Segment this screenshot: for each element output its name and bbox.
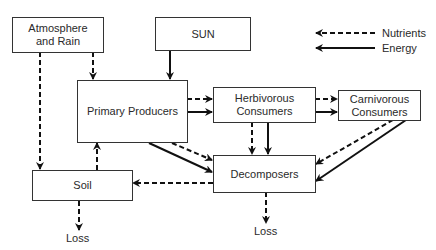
- legend-energy-label: Energy: [382, 42, 417, 55]
- edge-carnivorous-decomposers-energy: [316, 120, 406, 181]
- node-decomposers: Decomposers: [213, 155, 316, 193]
- node-carnivorous-consumers: Carnivorous Consumers: [338, 90, 421, 121]
- node-primary-producers: Primary Producers: [77, 80, 188, 143]
- node-atmosphere-and-rain: Atmosphere and Rain: [12, 17, 104, 53]
- decomposers-loss-label: Loss: [254, 225, 277, 238]
- legend-nutrients-label: Nutrients: [382, 27, 426, 40]
- edge-carnivorous-decomposers-nutrients: [316, 120, 393, 164]
- soil-loss-label: Loss: [66, 232, 89, 245]
- node-herbivorous-consumers: Herbivorous Consumers: [213, 87, 316, 123]
- node-soil: Soil: [32, 170, 133, 201]
- node-sun: SUN: [155, 17, 251, 51]
